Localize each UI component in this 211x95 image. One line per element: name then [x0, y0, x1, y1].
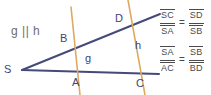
point-label-c: C — [136, 78, 144, 89]
line-label-g: g — [85, 53, 91, 64]
segment-denominator: SB — [189, 25, 203, 37]
proportion-formula-1: SC SA = SD SB — [160, 9, 204, 38]
line-label-h: h — [135, 40, 141, 51]
equals-sign: = — [179, 18, 185, 28]
point-label-s: S — [4, 64, 11, 75]
segment-denominator: AC — [160, 62, 175, 74]
fraction-bar — [160, 60, 175, 61]
parallel-lines-note: g || h — [11, 24, 40, 38]
fraction-bar — [189, 23, 204, 24]
segment-numerator: SC — [160, 9, 175, 21]
fraction-right: SB BD — [189, 46, 204, 75]
point-label-d: D — [115, 13, 123, 24]
segment-denominator: BD — [189, 62, 204, 74]
segment-numerator: SD — [189, 9, 204, 21]
fraction-bar — [160, 23, 175, 24]
fraction-bar — [189, 60, 204, 61]
point-label-a: A — [72, 77, 79, 88]
segment-numerator: SB — [189, 46, 203, 58]
segment-denominator: SA — [160, 25, 174, 37]
ray-lower-sac — [22, 70, 159, 74]
intercept-theorem-figure: S B A D C g h g || h SC SA = SD SB SA AC… — [0, 0, 211, 95]
segment-numerator: SA — [160, 46, 174, 58]
fraction-right: SD SB — [189, 9, 204, 38]
fraction-left: SA AC — [160, 46, 175, 75]
point-label-b: B — [60, 33, 67, 44]
proportion-formula-2: SA AC = SB BD — [160, 46, 204, 75]
equals-sign: = — [179, 55, 185, 65]
fraction-left: SC SA — [160, 9, 175, 38]
